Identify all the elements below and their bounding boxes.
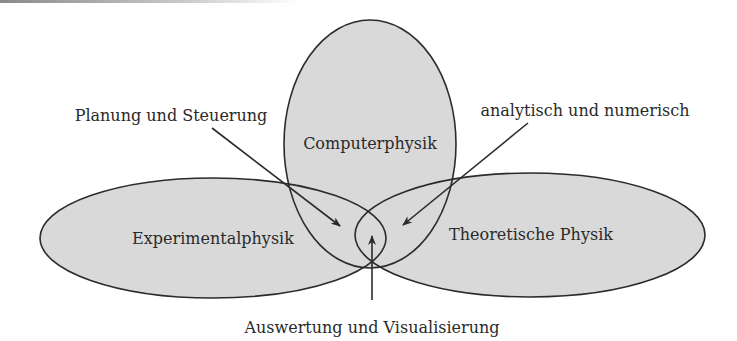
label-computerphysik: Computerphysik [303, 134, 437, 153]
annotation-planung-und-steuerung: Planung und Steuerung [75, 106, 268, 125]
venn-diagram: Computerphysik Experimentalphysik Theore… [0, 0, 737, 341]
label-experimentalphysik: Experimentalphysik [132, 229, 294, 248]
annotation-analytisch-und-numerisch: analytisch und numerisch [480, 101, 689, 120]
annotation-auswertung-und-visualisierung: Auswertung und Visualisierung [243, 318, 499, 337]
label-theoretische-physik: Theoretische Physik [449, 225, 613, 244]
